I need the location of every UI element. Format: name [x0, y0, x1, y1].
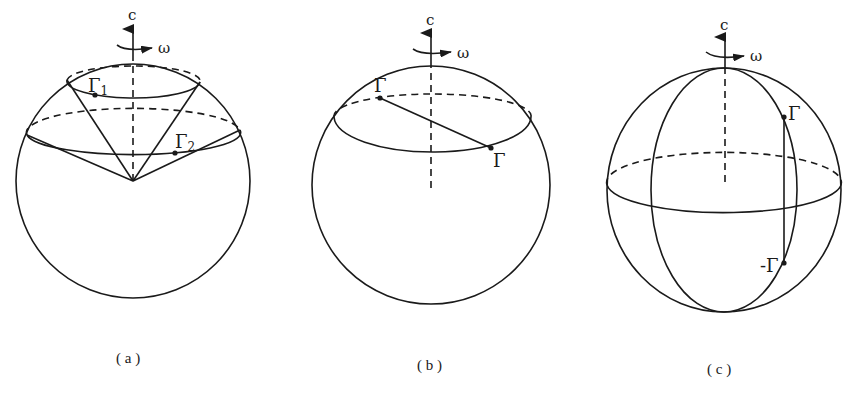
caption-c: ( c )	[707, 361, 731, 378]
chord-line	[380, 98, 491, 148]
panel-a: c ω Γ1 Γ2 ( a )	[16, 6, 250, 367]
gamma-front-label: Γ	[493, 150, 506, 171]
gamma2-label: Γ2	[175, 131, 195, 154]
rotation-arrow-icon	[117, 45, 152, 49]
gamma-back-label: Γ	[374, 75, 387, 96]
point-gamma-back	[377, 95, 382, 100]
gamma-label: Γ	[788, 103, 801, 124]
c-axis-label: c	[720, 16, 728, 34]
big-circle-front	[27, 130, 241, 155]
c-axis-label: c	[426, 11, 434, 29]
minus-gamma-label: -Γ	[760, 255, 779, 276]
sphere-outline	[607, 68, 841, 312]
caption-b: ( b )	[417, 357, 442, 374]
panel-b: c ω Γ Γ ( b )	[312, 11, 550, 374]
point-minus-gamma	[781, 260, 786, 265]
omega-label: ω	[457, 44, 469, 62]
figure-canvas: c ω Γ1 Γ2 ( a ) c ω Γ Γ	[0, 0, 855, 398]
c-axis-label: c	[128, 6, 136, 24]
latitude-circle-front	[334, 115, 531, 152]
omega-label: ω	[750, 47, 762, 65]
omega-label: ω	[158, 39, 170, 57]
panel-c: c ω Γ -Γ ( c )	[607, 16, 842, 378]
equator-front	[607, 180, 841, 213]
point-gamma	[781, 114, 786, 119]
equator-back	[607, 152, 841, 185]
gamma1-label: Γ1	[88, 75, 108, 98]
caption-a: ( a )	[116, 350, 140, 367]
latitude-circle-back	[334, 94, 531, 117]
cone1-right-generator	[133, 82, 200, 181]
rotation-arrow-icon	[413, 49, 451, 53]
